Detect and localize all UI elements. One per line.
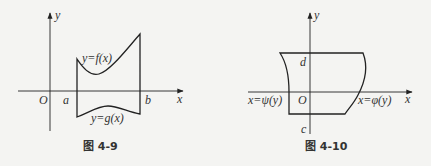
figures-svg: y x O a b y=f(x) y=g(x) 图 4-9 y x O d c … xyxy=(0,0,431,166)
y-axis-label: y xyxy=(54,8,61,22)
caption: 图 4-9 xyxy=(83,140,118,153)
region-boundary xyxy=(77,34,140,117)
left-curve-label: x=ψ(y) xyxy=(247,93,282,107)
x-axis-label: x xyxy=(176,92,183,106)
d-label: d xyxy=(300,55,307,69)
x-axis-label: x xyxy=(404,92,411,106)
caption: 图 4-10 xyxy=(305,140,348,153)
y-axis-label: y xyxy=(313,8,320,22)
a-label: a xyxy=(63,93,69,107)
right-curve-label: x=φ(y) xyxy=(357,93,391,107)
lower-curve-label: y=g(x) xyxy=(90,111,124,125)
origin-label: O xyxy=(39,93,48,107)
diagram-canvas: y x O a b y=f(x) y=g(x) 图 4-9 y x O d c … xyxy=(0,0,431,166)
figure-4-9: y x O a b y=f(x) y=g(x) 图 4-9 xyxy=(18,8,183,153)
region-boundary xyxy=(280,53,366,114)
figure-4-10: y x O d c x=ψ(y) x=φ(y) 图 4-10 xyxy=(247,8,412,153)
origin-label: O xyxy=(298,93,307,107)
c-label: c xyxy=(301,122,307,136)
upper-curve-label: y=f(x) xyxy=(81,51,112,65)
b-label: b xyxy=(145,93,151,107)
